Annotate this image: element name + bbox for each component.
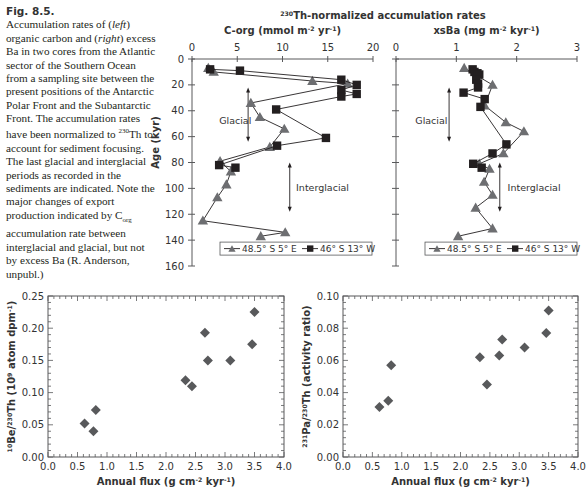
text-part: C-org (mmol m bbox=[224, 25, 308, 36]
data-point-diamond bbox=[200, 328, 210, 338]
y-axis-title: 10Be/230Th (109 atom dpm-1) bbox=[6, 301, 18, 453]
data-point-square bbox=[477, 163, 485, 171]
x-tick-label: 10 bbox=[276, 42, 289, 53]
x-tick-label: 3.5 bbox=[247, 461, 263, 472]
y-tick-label: 140 bbox=[165, 235, 184, 246]
legend-label-48S: 48.5° S 5° E bbox=[447, 244, 502, 254]
x-tick-label: 3.5 bbox=[541, 461, 557, 472]
x-tick-label: 0 bbox=[393, 42, 399, 53]
x-tick-label: 4.0 bbox=[570, 461, 586, 472]
data-point-square bbox=[322, 134, 330, 142]
data-point-square bbox=[488, 149, 496, 157]
y-tick-label: 0.05 bbox=[22, 419, 44, 430]
data-point-square bbox=[273, 141, 281, 149]
legend-marker-square bbox=[512, 245, 518, 251]
y-tick-label: 0.00 bbox=[22, 452, 44, 463]
x-axis-title: C-org (mmol m-2 yr-1) bbox=[224, 25, 341, 37]
text-part: Annual flux (g cm bbox=[97, 476, 196, 487]
y-tick-label: 100 bbox=[165, 183, 184, 194]
superscript: -1 bbox=[224, 476, 231, 483]
x-tick-label: 2.0 bbox=[158, 461, 174, 472]
data-point-diamond bbox=[383, 396, 393, 406]
y-tick-label: 60 bbox=[171, 131, 184, 142]
text-part: Th (10 bbox=[6, 377, 17, 413]
series-line-triangle bbox=[203, 68, 348, 236]
y-tick-label: 0 bbox=[178, 54, 184, 65]
text-part: kyr bbox=[202, 476, 224, 487]
y-tick-label: 120 bbox=[165, 209, 184, 220]
text-part: xsBa (mg m bbox=[433, 25, 499, 36]
y-tick-label: 0.08 bbox=[317, 323, 339, 334]
chart-be-th: 0.00.51.01.52.02.53.03.54.00.000.050.100… bbox=[6, 291, 292, 488]
x-tick-label: 4.0 bbox=[276, 461, 292, 472]
y-axis-title: Age (kyr) bbox=[150, 116, 161, 168]
x-tick-label: 1.0 bbox=[394, 461, 410, 472]
x-tick-label: 15 bbox=[321, 42, 334, 53]
x-tick-label: 2 bbox=[513, 42, 519, 53]
data-point-diamond bbox=[250, 307, 260, 317]
x-tick-label: 1.5 bbox=[129, 461, 145, 472]
superscript: -1 bbox=[6, 305, 13, 312]
data-point-triangle bbox=[479, 177, 489, 186]
x-tick-label: 0.5 bbox=[70, 461, 86, 472]
annotation-interglacial: Interglacial bbox=[508, 182, 561, 193]
annotation-interglacial: Interglacial bbox=[296, 182, 349, 193]
y-tick-label: 40 bbox=[171, 105, 184, 116]
y-tick-label: 0.20 bbox=[22, 323, 44, 334]
y-tick-label: 0.25 bbox=[22, 291, 44, 302]
arrow-glacial-head-down bbox=[447, 137, 451, 142]
chart-pa-th: 0.00.51.01.52.02.53.03.54.00.000.020.040… bbox=[301, 291, 586, 488]
y-tick-label: 0.00 bbox=[317, 452, 339, 463]
x-tick-label: 1.0 bbox=[99, 461, 115, 472]
superscript: -2 bbox=[308, 25, 315, 32]
text-part: Pa/ bbox=[301, 417, 312, 435]
data-point-triangle bbox=[501, 117, 511, 126]
legend: 48.5° S 5° E46° S 13° W bbox=[220, 242, 375, 255]
data-point-triangle bbox=[279, 124, 289, 133]
data-point-triangle bbox=[487, 190, 497, 199]
data-point-square bbox=[236, 66, 244, 74]
data-point-diamond bbox=[225, 355, 235, 365]
superscript: 230 bbox=[280, 10, 294, 17]
legend-label-46S: 46° S 13° W bbox=[320, 244, 375, 254]
data-point-diamond bbox=[203, 355, 213, 365]
data-point-diamond bbox=[247, 339, 257, 349]
data-point-diamond bbox=[187, 381, 197, 391]
annotation-glacial: Glacial bbox=[415, 115, 447, 126]
x-tick-label: 2.5 bbox=[188, 461, 204, 472]
y-tick-label: 0.10 bbox=[317, 291, 339, 302]
legend: 48.5° S 5° E46° S 13° W bbox=[425, 242, 580, 255]
text-part: Th (activity ratio) bbox=[301, 305, 312, 404]
y-tick-label: 0.06 bbox=[317, 355, 339, 366]
data-point-square bbox=[480, 95, 488, 103]
data-point-diamond bbox=[88, 426, 98, 436]
x-tick-label: 5 bbox=[234, 42, 240, 53]
text-part: ) bbox=[231, 476, 236, 487]
x-axis-title: xsBa (mg m-2 kyr-1) bbox=[433, 25, 539, 37]
superscript: -2 bbox=[195, 476, 202, 483]
superscript: -2 bbox=[500, 25, 507, 32]
data-point-diamond bbox=[541, 328, 551, 338]
y-tick-label: 20 bbox=[171, 79, 184, 90]
text-part: ) bbox=[525, 476, 530, 487]
x-tick-label: 20 bbox=[367, 42, 380, 53]
arrow-interglacial-head-up bbox=[288, 163, 292, 168]
x-tick-label: 0 bbox=[189, 42, 195, 53]
x-tick-label: 2.5 bbox=[482, 461, 498, 472]
chart-xsba: 0123xsBa (mg m-2 kyr-1)GlacialInterglaci… bbox=[392, 25, 580, 267]
data-point-triangle bbox=[519, 126, 529, 135]
data-point-square bbox=[337, 76, 345, 84]
text-part: Th-normalized accumulation rates bbox=[293, 10, 486, 21]
data-point-diamond bbox=[520, 343, 530, 353]
legend-label-46S: 46° S 13° W bbox=[525, 244, 580, 254]
super-title: 230Th-normalized accumulation rates bbox=[280, 10, 486, 22]
data-point-diamond bbox=[475, 352, 485, 362]
arrow-glacial-head-up bbox=[246, 87, 250, 92]
legend-label-48S: 48.5° S 5° E bbox=[242, 244, 297, 254]
arrow-interglacial-head-up bbox=[498, 163, 502, 168]
superscript: 230 bbox=[6, 412, 13, 426]
data-point-square bbox=[474, 83, 482, 91]
arrow-glacial-head-down bbox=[246, 137, 250, 142]
text-part: ) bbox=[6, 301, 17, 306]
plot-frame bbox=[48, 296, 284, 457]
